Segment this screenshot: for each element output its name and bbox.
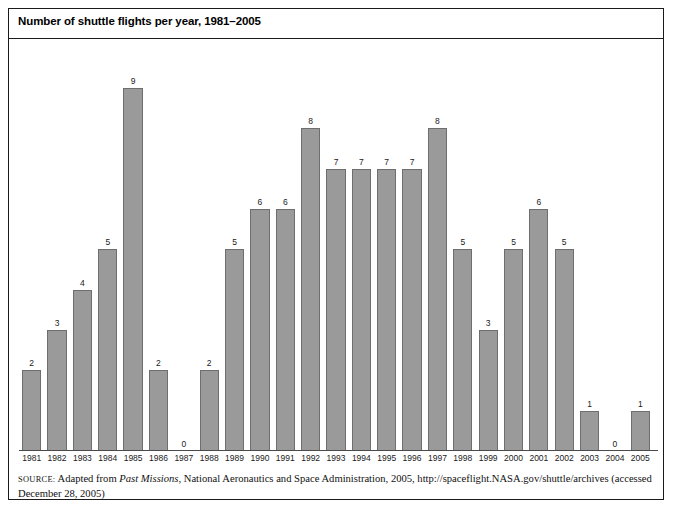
bar-1994: 7 xyxy=(349,39,374,451)
bar-rect-2005 xyxy=(631,411,650,451)
bar-1990: 6 xyxy=(247,39,272,451)
bar-rect-1999 xyxy=(479,330,498,451)
bar-value-1997: 8 xyxy=(425,116,450,126)
source-label: Source: xyxy=(18,475,55,484)
x-tick-1984: 1984 xyxy=(95,453,120,463)
bar-rect-1994 xyxy=(352,169,371,451)
bar-rect-2000 xyxy=(504,249,523,451)
bar-value-1984: 5 xyxy=(95,237,120,247)
bar-1983: 4 xyxy=(70,39,95,451)
x-tick-1989: 1989 xyxy=(222,453,247,463)
bar-1985: 9 xyxy=(120,39,145,451)
bar-rect-1988 xyxy=(200,370,219,451)
bar-rect-1981 xyxy=(22,370,41,451)
bar-2002: 5 xyxy=(552,39,577,451)
bar-1998: 5 xyxy=(450,39,475,451)
bar-2005: 1 xyxy=(628,39,653,451)
x-tick-1988: 1988 xyxy=(197,453,222,463)
bar-2000: 5 xyxy=(501,39,526,451)
bar-rect-1992 xyxy=(301,128,320,451)
bar-value-1983: 4 xyxy=(70,278,95,288)
bar-1986: 2 xyxy=(146,39,171,451)
bar-1984: 5 xyxy=(95,39,120,451)
bar-value-2000: 5 xyxy=(501,237,526,247)
bar-value-1982: 3 xyxy=(44,318,69,328)
bar-rect-1991 xyxy=(276,209,295,451)
bar-1997: 8 xyxy=(425,39,450,451)
bar-value-1999: 3 xyxy=(475,318,500,328)
x-tick-1999: 1999 xyxy=(475,453,500,463)
x-tick-1986: 1986 xyxy=(146,453,171,463)
x-tick-2000: 2000 xyxy=(501,453,526,463)
x-tick-1981: 1981 xyxy=(19,453,44,463)
bar-rect-1998 xyxy=(453,249,472,451)
chart-title: Number of shuttle flights per year, 1981… xyxy=(18,15,261,27)
bar-value-1993: 7 xyxy=(323,157,348,167)
bar-value-1998: 5 xyxy=(450,237,475,247)
x-tick-2004: 2004 xyxy=(602,453,627,463)
x-axis-line xyxy=(19,450,658,451)
x-axis-tick-labels: 1981198219831984198519861987198819891990… xyxy=(19,453,653,469)
bars-layer: 2345920256687777853565101 xyxy=(19,39,653,451)
bar-value-2004: 0 xyxy=(602,439,627,449)
bar-2001: 6 xyxy=(526,39,551,451)
bar-rect-1997 xyxy=(428,128,447,451)
bar-rect-1990 xyxy=(250,209,269,451)
bar-value-1994: 7 xyxy=(349,157,374,167)
bar-rect-1986 xyxy=(149,370,168,451)
bar-1981: 2 xyxy=(19,39,44,451)
x-tick-1995: 1995 xyxy=(374,453,399,463)
bar-rect-1996 xyxy=(402,169,421,451)
source-text-lead: Adapted from xyxy=(55,473,119,484)
bar-rect-2003 xyxy=(580,411,599,451)
bar-value-1989: 5 xyxy=(222,237,247,247)
bar-rect-1995 xyxy=(377,169,396,451)
title-block: Number of shuttle flights per year, 1981… xyxy=(9,9,663,39)
source-note: Source: Adapted from Past Missions, Nati… xyxy=(18,472,654,501)
x-tick-1994: 1994 xyxy=(349,453,374,463)
x-tick-1993: 1993 xyxy=(323,453,348,463)
x-tick-1985: 1985 xyxy=(120,453,145,463)
bar-value-2003: 1 xyxy=(577,399,602,409)
bar-value-1987: 0 xyxy=(171,439,196,449)
bar-rect-2002 xyxy=(555,249,574,451)
bar-2004: 0 xyxy=(602,39,627,451)
bar-value-1991: 6 xyxy=(273,197,298,207)
bar-rect-1984 xyxy=(98,249,117,451)
bar-value-1985: 9 xyxy=(120,76,145,86)
x-tick-1997: 1997 xyxy=(425,453,450,463)
x-tick-1987: 1987 xyxy=(171,453,196,463)
bar-rect-1982 xyxy=(47,330,66,451)
bar-value-1992: 8 xyxy=(298,116,323,126)
x-tick-1992: 1992 xyxy=(298,453,323,463)
bar-1992: 8 xyxy=(298,39,323,451)
bar-rect-2001 xyxy=(529,209,548,451)
x-tick-1998: 1998 xyxy=(450,453,475,463)
bar-value-2005: 1 xyxy=(628,399,653,409)
bar-value-1986: 2 xyxy=(146,358,171,368)
bar-value-2002: 5 xyxy=(552,237,577,247)
source-title-italic: Past Missions xyxy=(119,473,178,484)
bar-1982: 3 xyxy=(44,39,69,451)
x-tick-1996: 1996 xyxy=(399,453,424,463)
x-tick-2002: 2002 xyxy=(552,453,577,463)
bar-rect-1983 xyxy=(73,290,92,451)
x-tick-1982: 1982 xyxy=(44,453,69,463)
bar-rect-1989 xyxy=(225,249,244,451)
bar-1995: 7 xyxy=(374,39,399,451)
figure-frame: Number of shuttle flights per year, 1981… xyxy=(8,8,664,500)
bar-1987: 0 xyxy=(171,39,196,451)
bar-value-1990: 6 xyxy=(247,197,272,207)
bar-1991: 6 xyxy=(273,39,298,451)
bar-1988: 2 xyxy=(197,39,222,451)
bar-value-1981: 2 xyxy=(19,358,44,368)
x-tick-1990: 1990 xyxy=(247,453,272,463)
x-tick-1983: 1983 xyxy=(70,453,95,463)
bar-rect-1993 xyxy=(326,169,345,451)
bar-1993: 7 xyxy=(323,39,348,451)
bar-value-1988: 2 xyxy=(197,358,222,368)
bar-1989: 5 xyxy=(222,39,247,451)
bar-value-1996: 7 xyxy=(399,157,424,167)
x-tick-1991: 1991 xyxy=(273,453,298,463)
bar-1996: 7 xyxy=(399,39,424,451)
